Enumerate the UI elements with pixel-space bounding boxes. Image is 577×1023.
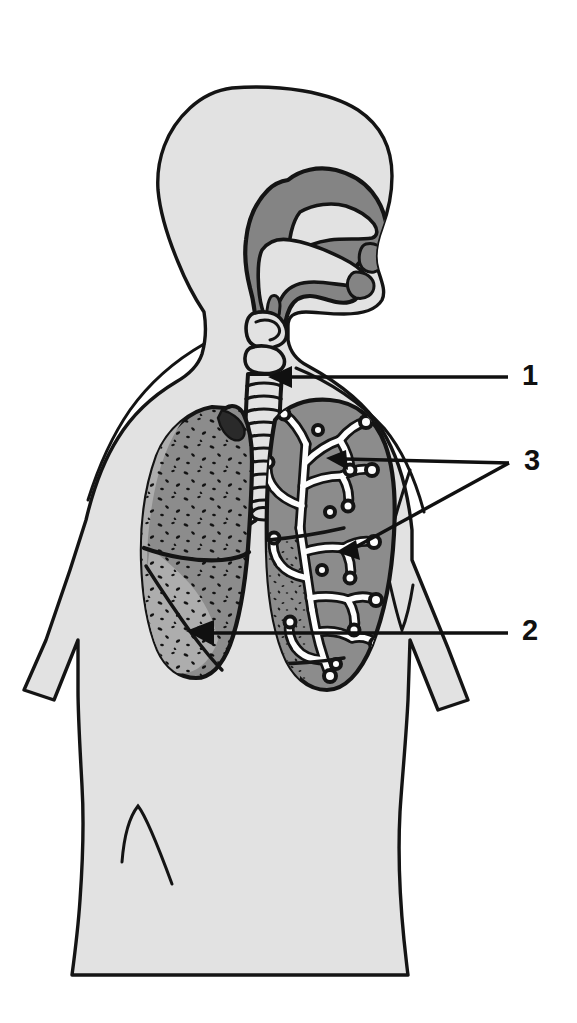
callout-label-3: 3	[524, 446, 540, 475]
callout-label-1: 1	[522, 361, 538, 390]
larynx-group	[245, 312, 287, 374]
lip-detail	[347, 272, 374, 298]
nostril-detail	[359, 243, 384, 272]
anatomy-illustration	[0, 0, 577, 1023]
cricoid-cartilage	[245, 346, 285, 374]
callout-label-2: 2	[522, 616, 538, 645]
respiratory-system-figure: 1 3 2	[0, 0, 577, 1023]
